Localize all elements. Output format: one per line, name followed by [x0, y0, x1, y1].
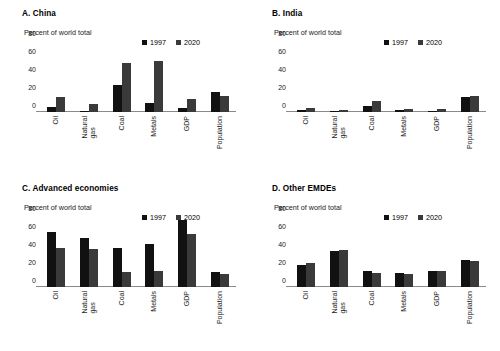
bar: [395, 110, 404, 112]
bar: [404, 274, 413, 287]
y-axis-tick-label: 0: [32, 102, 36, 109]
bar: [306, 108, 315, 113]
bar-group: Metals: [388, 40, 421, 112]
x-axis-category-label: Natural gas: [331, 291, 346, 314]
bar-group: Metals: [138, 40, 171, 112]
bar-group: Natural gas: [323, 215, 356, 287]
bar: [220, 96, 229, 112]
x-axis-category-label: Metals: [151, 291, 159, 312]
panel-title: A. China: [22, 9, 56, 18]
y-axis-tick-label: 20: [28, 84, 36, 91]
bar: [395, 273, 404, 287]
bar-group: Population: [453, 40, 486, 112]
bar-groups: OilNatural gasCoalMetalsGDPPopulation: [40, 215, 236, 287]
bar: [113, 248, 122, 287]
bar: [113, 85, 122, 112]
bar: [330, 251, 339, 287]
y-axis-tick-label: 80: [278, 205, 286, 212]
bar-group: Metals: [138, 215, 171, 287]
bar-group: Oil: [290, 215, 323, 287]
bar: [89, 249, 98, 287]
bar: [297, 265, 306, 288]
plot-area: 020406080 OilNatural gasCoalMetalsGDPPop…: [40, 215, 236, 287]
x-axis-category-label: Metals: [401, 116, 409, 137]
x-axis-category-label: Coal: [368, 116, 376, 130]
bar-group: GDP: [421, 215, 454, 287]
chart-panel-b: B. India Percent of world total 1997 202…: [250, 0, 500, 176]
y-axis-tick-label: 0: [282, 102, 286, 109]
y-axis-tick-label: 80: [28, 205, 36, 212]
bar: [330, 111, 339, 112]
bar: [187, 99, 196, 112]
bar: [306, 263, 315, 287]
bar-group: GDP: [171, 40, 204, 112]
bar: [145, 103, 154, 112]
bar: [89, 104, 98, 112]
x-axis-category-label: Oil: [53, 291, 61, 300]
plot-area: 020406080 OilNatural gasCoalMetalsGDPPop…: [40, 40, 236, 112]
bar-groups: OilNatural gasCoalMetalsGDPPopulation: [40, 40, 236, 112]
bar-group: Metals: [388, 215, 421, 287]
bar: [187, 234, 196, 287]
x-axis-category-label: GDP: [183, 116, 191, 131]
bar-group: Population: [203, 40, 236, 112]
panel-title: B. India: [272, 9, 302, 18]
x-axis-category-label: Coal: [118, 291, 126, 305]
figure-four-panel-bar-chart: A. China Percent of world total 1997 202…: [0, 0, 500, 351]
bar: [47, 232, 56, 287]
bar-group: Oil: [290, 40, 323, 112]
bar-group: Coal: [355, 40, 388, 112]
bar-group: Natural gas: [73, 215, 106, 287]
bar: [145, 244, 154, 287]
bar: [363, 271, 372, 287]
x-axis-category-label: Coal: [118, 116, 126, 130]
y-axis-tick-label: 40: [28, 66, 36, 73]
bar: [211, 272, 220, 287]
x-axis-category-label: GDP: [433, 116, 441, 131]
plot-area: 020406080 OilNatural gasCoalMetalsGDPPop…: [290, 40, 486, 112]
x-axis-category-label: Oil: [303, 116, 311, 125]
bar-group: Coal: [105, 40, 138, 112]
bar: [154, 271, 163, 287]
bar: [372, 101, 381, 112]
bar: [339, 250, 348, 287]
x-axis-category-label: Metals: [151, 116, 159, 137]
y-axis-tick-label: 60: [278, 48, 286, 55]
bar: [220, 274, 229, 287]
x-axis-category-label: Population: [466, 291, 474, 324]
bar: [47, 107, 56, 112]
bar: [437, 271, 446, 287]
y-axis-tick-label: 80: [278, 30, 286, 37]
x-axis-category-label: Natural gas: [331, 116, 346, 139]
chart-panel-d: D. Other EMDEs Percent of world total 19…: [250, 175, 500, 351]
panel-title: D. Other EMDEs: [272, 184, 336, 193]
bar: [461, 260, 470, 287]
y-axis-tick-label: 20: [28, 259, 36, 266]
bar-group: GDP: [421, 40, 454, 112]
bar: [470, 261, 479, 287]
y-axis-tick-label: 0: [32, 277, 36, 284]
bar: [80, 111, 89, 112]
x-axis-category-label: Population: [216, 291, 224, 324]
x-axis-category-label: GDP: [433, 291, 441, 306]
y-axis-tick-label: 60: [28, 48, 36, 55]
bar: [372, 273, 381, 287]
bar: [363, 106, 372, 112]
y-axis-tick-label: 20: [278, 259, 286, 266]
chart-panel-c: C. Advanced economies Percent of world t…: [0, 175, 250, 351]
x-axis-category-label: Population: [216, 116, 224, 149]
panel-title: C. Advanced economies: [22, 184, 118, 193]
bar-group: Natural gas: [323, 40, 356, 112]
bar: [437, 109, 446, 112]
bar-groups: OilNatural gasCoalMetalsGDPPopulation: [290, 215, 486, 287]
y-axis-tick-label: 40: [28, 241, 36, 248]
bar: [470, 96, 479, 112]
bar: [178, 108, 187, 112]
bar: [404, 109, 413, 112]
x-axis-category-label: Oil: [53, 116, 61, 125]
x-axis-category-label: Natural gas: [81, 116, 96, 139]
y-axis-tick-label: 40: [278, 241, 286, 248]
plot-area: 020406080 OilNatural gasCoalMetalsGDPPop…: [290, 215, 486, 287]
bar: [122, 63, 131, 112]
x-axis-category-label: Oil: [303, 291, 311, 300]
